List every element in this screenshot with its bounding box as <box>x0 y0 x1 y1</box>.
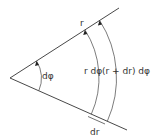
label-dr: dr <box>90 127 100 137</box>
sector-diagram: r dφ r dφ (r + dr) dφ dr <box>0 0 162 137</box>
lower-ray <box>10 78 127 130</box>
label-r-dphi: r dφ <box>84 66 102 76</box>
label-dphi: dφ <box>42 71 54 81</box>
dr-bracket <box>88 117 105 125</box>
small-angle-arc <box>37 61 42 91</box>
label-r: r <box>80 18 84 28</box>
label-r-plus-dr-dphi: (r + dr) dφ <box>102 66 150 76</box>
